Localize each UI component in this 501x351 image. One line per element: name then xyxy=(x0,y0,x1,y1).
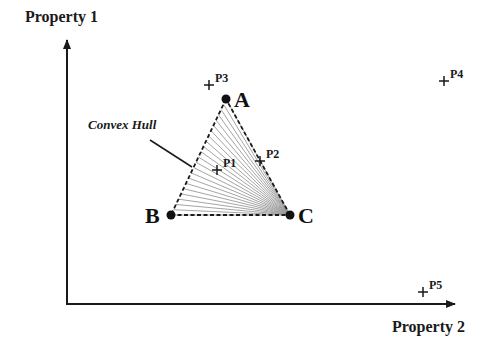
y-axis-label: Property 1 xyxy=(25,8,98,26)
fan-line xyxy=(201,152,290,215)
vertex-a-dot xyxy=(222,95,231,104)
x-axis-label: Property 2 xyxy=(392,318,465,336)
point-label: P5 xyxy=(429,278,442,292)
point-label: P1 xyxy=(223,156,236,170)
point-label: P2 xyxy=(266,147,279,161)
vertex-b-dot xyxy=(167,211,176,220)
vertex-a-label: A xyxy=(234,87,250,112)
point-p3: P3 xyxy=(204,71,228,90)
point-p1: P1 xyxy=(212,156,236,175)
point-p5: P5 xyxy=(418,278,442,297)
point-p4: P4 xyxy=(439,67,463,86)
vertex-c-label: C xyxy=(298,203,314,228)
convex-hull-leader-line xyxy=(150,140,192,167)
plus-marker-icon xyxy=(418,287,428,297)
plus-marker-icon xyxy=(204,80,214,90)
point-label: P4 xyxy=(450,67,463,81)
vertex-c-dot xyxy=(286,211,295,220)
convex-hull-label: Convex Hull xyxy=(88,117,157,132)
plus-marker-icon xyxy=(439,76,449,86)
point-label: P3 xyxy=(215,71,228,85)
vertex-b-label: B xyxy=(145,203,160,228)
convex-hull-diagram: Property 1 Property 2 Convex Hull ABC P1… xyxy=(0,0,501,351)
